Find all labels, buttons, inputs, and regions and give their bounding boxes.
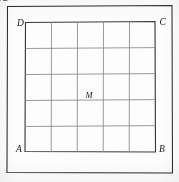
grid-horizontal-lines xyxy=(25,48,155,127)
grid-hline-1 xyxy=(25,48,155,49)
vertex-label-c: C xyxy=(160,17,167,27)
vertex-label-d: D xyxy=(16,18,24,28)
geometry-figure: D C A B M xyxy=(0,0,179,182)
center-label-m: M xyxy=(85,90,94,100)
grid-hline-2 xyxy=(25,74,155,75)
geometry-canvas: D C A B M xyxy=(0,0,179,182)
vertex-label-a: A xyxy=(15,144,22,154)
grid-hline-4 xyxy=(25,126,155,127)
inner-square-border xyxy=(25,22,156,153)
grid-hline-3 xyxy=(25,100,155,101)
grid-vertical-lines xyxy=(51,22,129,152)
vertex-label-b: B xyxy=(159,144,165,154)
